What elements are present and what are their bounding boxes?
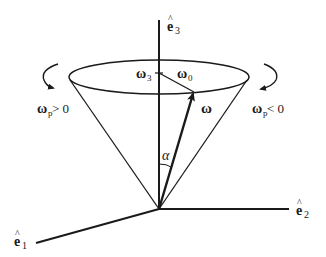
svg-text:^: ^ (297, 197, 302, 208)
e3-label: e ^ 3 (167, 13, 180, 36)
svg-text:ω: ω (201, 100, 212, 116)
omega-label: ω (201, 100, 212, 116)
svg-text:ω: ω (252, 101, 262, 116)
svg-text:2: 2 (304, 209, 309, 220)
svg-text:3: 3 (175, 25, 180, 36)
svg-text:^: ^ (168, 13, 173, 24)
svg-text:ω: ω (37, 101, 47, 116)
svg-text:< 0: < 0 (267, 101, 284, 116)
omega0-label: ω 0 (177, 66, 193, 83)
svg-text:ω: ω (177, 66, 187, 81)
svg-text:^: ^ (15, 228, 20, 239)
precession-negative-arrow (261, 64, 277, 89)
e2-label: e ^ 2 (296, 197, 309, 220)
svg-text:3: 3 (147, 73, 152, 83)
svg-text:α: α (162, 148, 170, 163)
precession-negative-label: ω p < 0 (252, 101, 284, 118)
e1-axis (36, 209, 159, 243)
cone-left-side (70, 80, 159, 209)
precession-positive-arrow (43, 64, 58, 88)
e1-label: e ^ 1 (14, 228, 27, 251)
svg-text:1: 1 (22, 240, 27, 251)
omega3-label: ω 3 (136, 66, 152, 83)
svg-text:> 0: > 0 (52, 101, 69, 116)
alpha-arc (159, 164, 171, 167)
svg-text:ω: ω (136, 66, 146, 81)
precession-positive-label: ω p > 0 (37, 101, 69, 118)
precession-cone-diagram: e ^ 3 e ^ 2 e ^ 1 ω 3 ω 0 ω α ω p > 0 ω … (0, 0, 326, 257)
svg-text:0: 0 (188, 73, 193, 83)
alpha-label: α (162, 148, 170, 163)
